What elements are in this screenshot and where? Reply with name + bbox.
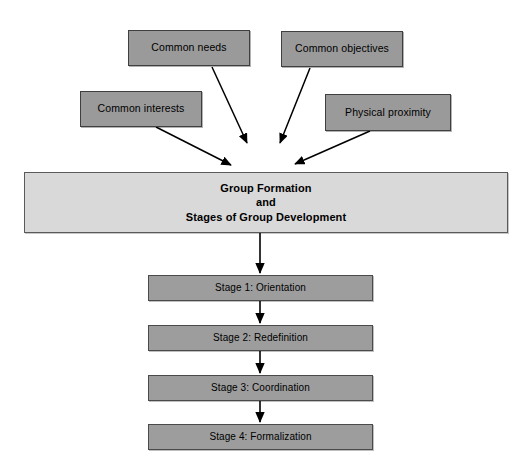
node-common-needs[interactable]: Common needs: [128, 30, 250, 66]
node-physical-proximity[interactable]: Physical proximity: [325, 94, 451, 131]
node-stage-4-label: Stage 4: Formalization: [209, 431, 311, 444]
node-stage-1-label: Stage 1: Orientation: [215, 282, 306, 295]
node-stage-2[interactable]: Stage 2: Redefinition: [148, 325, 373, 351]
diagram-canvas: Common needs Common objectives Common in…: [0, 0, 527, 470]
node-stage-3-label: Stage 3: Coordination: [211, 382, 310, 395]
node-stage-4[interactable]: Stage 4: Formalization: [148, 424, 373, 450]
node-common-interests[interactable]: Common interests: [80, 91, 202, 127]
arrow-common-interests: [156, 127, 231, 165]
hub-title-line-2: and: [256, 195, 276, 209]
node-common-objectives-label: Common objectives: [295, 42, 389, 55]
arrow-common-objectives: [280, 68, 310, 143]
node-stage-2-label: Stage 2: Redefinition: [213, 332, 308, 345]
node-common-interests-label: Common interests: [98, 102, 185, 115]
hub-title-line-3: Stages of Group Development: [186, 210, 346, 224]
node-common-needs-label: Common needs: [151, 41, 226, 54]
arrow-physical-proximity: [295, 131, 370, 164]
node-group-formation-hub[interactable]: Group Formation and Stages of Group Deve…: [24, 172, 508, 233]
node-stage-3[interactable]: Stage 3: Coordination: [148, 375, 373, 401]
node-common-objectives[interactable]: Common objectives: [281, 31, 403, 67]
node-stage-1[interactable]: Stage 1: Orientation: [148, 275, 373, 301]
arrow-common-needs: [212, 67, 247, 143]
node-physical-proximity-label: Physical proximity: [345, 106, 431, 119]
hub-title-line-1: Group Formation: [220, 181, 311, 195]
